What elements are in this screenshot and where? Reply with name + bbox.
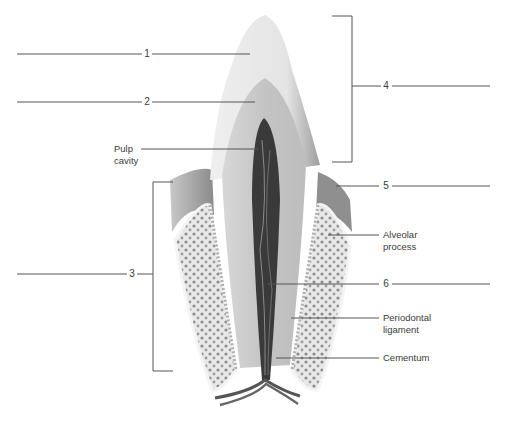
label-3: 3 [127, 268, 137, 280]
label-alveolar-process: Alveolar process [383, 229, 417, 253]
label-periodontal-ligament: Periodontal ligament [383, 312, 431, 336]
label-1: 1 [142, 48, 152, 60]
vessels [215, 380, 300, 398]
label-6: 6 [381, 278, 391, 290]
label-pulp-cavity: Pulp cavity [114, 143, 138, 167]
label-5: 5 [381, 180, 391, 192]
label-cementum: Cementum [383, 352, 429, 364]
tooth-diagram: 1 2 3 4 5 6 Pulp cavity Alveolar process… [0, 0, 505, 422]
label-4: 4 [381, 80, 391, 92]
label-2: 2 [142, 96, 152, 108]
